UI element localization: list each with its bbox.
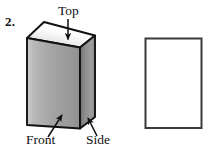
label-front: Front: [26, 133, 55, 147]
label-top: Top: [58, 4, 79, 18]
worksheet-figure-page: 2. Top Front Side: [0, 0, 211, 156]
label-side: Side: [86, 133, 110, 147]
box-front-face: [27, 38, 80, 129]
exercise-number: 2.: [5, 15, 15, 28]
answer-rectangle[interactable]: [146, 39, 202, 129]
box-side-face: [80, 36, 95, 129]
